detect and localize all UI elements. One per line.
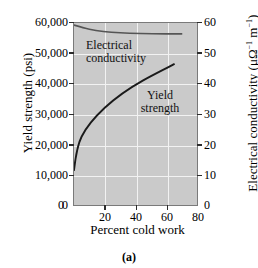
tick-label-bottom: 0 [48, 199, 74, 211]
tick-label-right: 50 [204, 47, 216, 59]
tick-label-left: 60,000 [35, 16, 68, 28]
annotation-line-2: strength [131, 102, 189, 115]
tick-label-right: 60 [204, 16, 216, 28]
tick-mark-right [197, 52, 202, 54]
y-axis-right-label-suffix: ) [245, 15, 258, 19]
tick-mark-right [197, 114, 202, 116]
tick-label-right: 20 [204, 139, 216, 151]
figure-caption: (a) [0, 250, 258, 265]
tick-label-left: 50,000 [35, 47, 68, 59]
y-axis-left-label: Yield strength (psi) [20, 13, 36, 193]
annotation-electrical-conductivity: Electrical conductivity [86, 39, 146, 65]
y-axis-right-label-exponent-1: −1 [245, 41, 254, 50]
y-axis-right-label-prefix: Electrical conductivity (μΩ [245, 49, 258, 191]
tick-mark-left [69, 52, 74, 54]
tick-label-left: 20,000 [35, 139, 68, 151]
x-axis-label: Percent cold work [45, 222, 230, 238]
tick-mark-right [197, 83, 202, 85]
tick-mark-left [69, 114, 74, 116]
plot-area: Electrical conductivity Yield strength [73, 22, 198, 206]
tick-mark-left [69, 175, 74, 177]
tick-label-left: 40,000 [35, 77, 68, 89]
tick-mark-left [69, 22, 74, 24]
annotation-yield-strength: Yield strength [131, 89, 189, 115]
tick-mark-left [69, 83, 74, 85]
y-axis-right-label: Electrical conductivity (μΩ−1 m−1) [245, 0, 258, 208]
yield-strength-curve [74, 64, 174, 170]
y-axis-right-label-exponent-2: −1 [245, 19, 254, 28]
tick-mark-right [197, 175, 202, 177]
tick-mark-right [197, 22, 202, 24]
tick-label-left: 30,000 [35, 108, 68, 120]
tick-label-left: 10,000 [35, 169, 68, 181]
figure-container: Electrical conductivity Yield strength 6… [0, 0, 258, 268]
tick-label-right: 0 [204, 199, 210, 211]
electrical-conductivity-curve [74, 25, 182, 34]
tick-label-right: 10 [204, 169, 216, 181]
annotation-line-2: conductivity [86, 52, 146, 65]
tick-label-right: 40 [204, 77, 216, 89]
tick-mark-left [69, 144, 74, 146]
tick-label-right: 30 [204, 108, 216, 120]
y-axis-right-label-mid: m [245, 28, 258, 41]
tick-mark-right [197, 144, 202, 146]
